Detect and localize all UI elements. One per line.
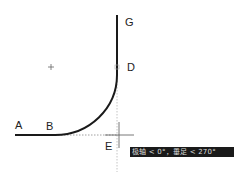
point-label-g: G [125, 17, 134, 28]
point-label-b: B [46, 121, 53, 132]
arc-bd[interactable] [55, 75, 117, 135]
point-label-d: D [127, 62, 135, 73]
center-marker-icon [48, 64, 54, 70]
tracking-tooltip: 极轴 < 0°，垂足 < 270° [130, 147, 234, 157]
point-label-a: A [15, 120, 22, 131]
point-label-e: E [105, 141, 112, 152]
